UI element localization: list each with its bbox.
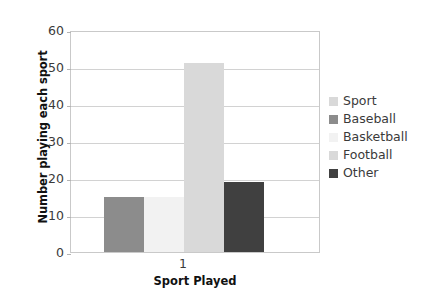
bar-other[interactable] [224, 182, 264, 252]
legend-item-label: Other [343, 167, 379, 180]
y-axis-tick-label: 30 [26, 136, 64, 149]
y-axis-tick-label: 20 [26, 173, 64, 186]
legend-item-other[interactable]: Other [329, 164, 424, 182]
y-axis-tick-label: 10 [26, 210, 64, 223]
bar-chart: Number playing each sport 6050403020100 … [0, 0, 424, 297]
legend-swatch-icon [329, 151, 338, 160]
x-axis-tick-labels: 1 [70, 256, 320, 272]
y-axis-tick-mark [67, 254, 71, 255]
legend-swatch-icon [329, 115, 338, 124]
x-axis-title: Sport Played [70, 274, 320, 288]
legend-item-label: Basketball [343, 131, 408, 144]
legend-item-label: Sport [343, 95, 377, 108]
legend-item-basketball[interactable]: Basketball [329, 128, 424, 146]
bars-group [71, 32, 319, 252]
legend-item-label: Football [343, 149, 392, 162]
legend-item-football[interactable]: Football [329, 146, 424, 164]
y-axis-tick-label: 40 [26, 99, 64, 112]
legend-swatch-icon [329, 169, 338, 178]
legend-item-sport[interactable]: Sport [329, 92, 424, 110]
bar-basketball[interactable] [144, 197, 184, 253]
y-axis-tick-label: 0 [26, 247, 64, 260]
plot-area [70, 31, 320, 253]
bar-football[interactable] [184, 63, 224, 252]
legend-swatch-icon [329, 97, 338, 106]
legend-swatch-icon [329, 133, 338, 142]
y-axis-tick-label: 60 [26, 25, 64, 38]
x-axis-tick-label: 1 [179, 256, 187, 271]
y-axis-tick-labels: 6050403020100 [26, 31, 64, 253]
chart-legend: SportBaseballBasketballFootballOther [329, 92, 424, 182]
legend-item-baseball[interactable]: Baseball [329, 110, 424, 128]
y-axis-tick-label: 50 [26, 62, 64, 75]
bar-baseball[interactable] [104, 197, 144, 253]
legend-item-label: Baseball [343, 113, 396, 126]
